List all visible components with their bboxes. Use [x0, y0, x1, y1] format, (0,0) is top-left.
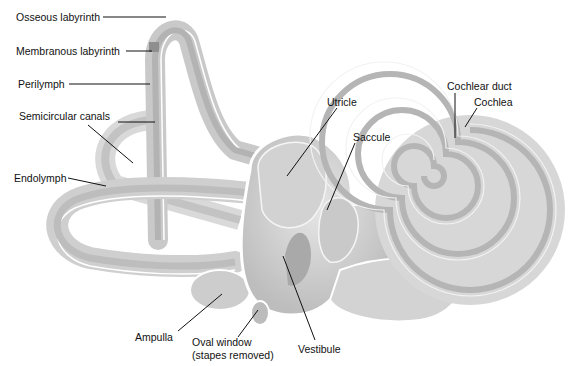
label-osseous-labyrinth: Osseous labyrinth — [16, 11, 100, 23]
ampulla-shape — [190, 270, 250, 310]
label-endolymph: Endolymph — [14, 172, 67, 184]
label-membranous-labyrinth: Membranous labyrinth — [16, 45, 120, 57]
label-ampulla: Ampulla — [135, 331, 173, 343]
label-oval-window: Oval window — [192, 336, 252, 348]
label-oval-window-subtext: (stapes removed) — [192, 349, 274, 361]
label-vestibule: Vestibule — [298, 343, 341, 355]
label-semicircular-canals: Semicircular canals — [19, 110, 110, 122]
label-cochlear-duct: Cochlear duct — [447, 80, 512, 92]
oval-window-shape — [251, 301, 269, 325]
label-utricle: Utricle — [327, 96, 357, 108]
label-cochlea: Cochlea — [474, 96, 513, 108]
label-perilymph: Perilymph — [18, 78, 65, 90]
label-saccule: Saccule — [353, 131, 390, 143]
inner-ear-diagram: Osseous labyrinth Membranous labyrinth P… — [0, 0, 572, 366]
